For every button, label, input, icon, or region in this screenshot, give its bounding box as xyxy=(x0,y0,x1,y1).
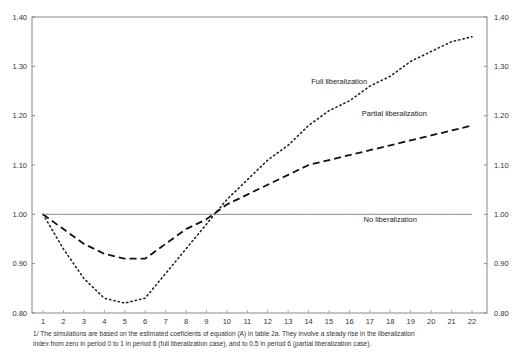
x-tick-label: 2 xyxy=(61,317,65,325)
full-liberalization-line xyxy=(43,37,472,303)
right-y-axis-labels: 0.800.901.001.101.201.301.40 xyxy=(494,13,509,318)
line-chart: 0.800.901.001.101.201.301.40 0.800.901.0… xyxy=(0,0,520,325)
y-tick-label: 1.30 xyxy=(494,62,509,71)
footnote: 1/ The simulations are based on the esti… xyxy=(33,329,513,349)
x-tick-label: 21 xyxy=(447,317,455,325)
y-tick-label: 0.80 xyxy=(12,309,27,318)
x-tick-label: 7 xyxy=(163,317,167,325)
series-label: No liberalization xyxy=(364,215,417,224)
series-label: Full liberalization xyxy=(311,77,367,86)
x-tick-label: 6 xyxy=(143,317,147,325)
footnote-line-2: index from zero in period 0 to 1 in peri… xyxy=(33,339,513,349)
x-tick-label: 22 xyxy=(468,317,476,325)
x-tick-label: 3 xyxy=(82,317,86,325)
y-tick-label: 1.10 xyxy=(12,161,27,170)
x-tick-label: 5 xyxy=(123,317,127,325)
x-tick-label: 8 xyxy=(184,317,188,325)
y-tick-label: 1.00 xyxy=(494,210,509,219)
x-tick-label: 13 xyxy=(284,317,292,325)
x-tick-label: 15 xyxy=(325,317,333,325)
y-tick-label: 1.30 xyxy=(12,62,27,71)
x-tick-label: 19 xyxy=(407,317,415,325)
x-tick-label: 1 xyxy=(41,317,45,325)
y-tick-label: 1.20 xyxy=(12,111,27,120)
x-axis-labels: 12345678910111213141516171819202122 xyxy=(41,317,476,325)
footnote-line-1: 1/ The simulations are based on the esti… xyxy=(33,329,513,339)
y-tick-label: 0.90 xyxy=(12,259,27,268)
y-tick-label: 0.90 xyxy=(494,259,509,268)
x-tick-label: 17 xyxy=(366,317,374,325)
x-tick-label: 10 xyxy=(223,317,231,325)
series-label: Partial liberalization xyxy=(362,109,427,118)
x-tick-label: 9 xyxy=(204,317,208,325)
y-tick-label: 1.40 xyxy=(494,13,509,22)
y-tick-label: 1.00 xyxy=(12,210,27,219)
series-lines xyxy=(43,37,472,303)
y-tick-label: 1.40 xyxy=(12,13,27,22)
x-tick-label: 12 xyxy=(264,317,272,325)
y-tick-label: 1.10 xyxy=(494,161,509,170)
x-tick-label: 20 xyxy=(427,317,435,325)
x-tick-label: 14 xyxy=(304,317,312,325)
partial-liberalization-line xyxy=(43,126,472,259)
left-y-axis-labels: 0.800.901.001.101.201.301.40 xyxy=(12,13,27,318)
x-tick-label: 11 xyxy=(243,317,251,325)
plot-frame xyxy=(32,17,487,313)
y-tick-label: 1.20 xyxy=(494,111,509,120)
x-tick-label: 4 xyxy=(102,317,106,325)
x-tick-label: 16 xyxy=(345,317,353,325)
y-tick-label: 0.80 xyxy=(494,309,509,318)
x-tick-label: 18 xyxy=(386,317,394,325)
